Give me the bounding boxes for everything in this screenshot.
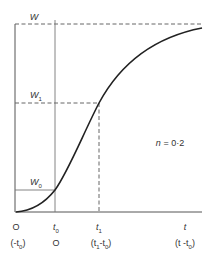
tick-origin: O — [12, 222, 19, 232]
label-w: W — [30, 12, 39, 22]
tick-t1: t1 — [96, 222, 102, 234]
annotation-n: n = 0·2 — [156, 138, 184, 148]
growth-chart — [0, 0, 212, 257]
tick-origin-shifted: (-t0) — [11, 238, 26, 250]
tick-t-shifted: (t -t0) — [175, 238, 195, 250]
tick-t0-shifted: O — [52, 238, 59, 248]
label-w1: W1 — [30, 90, 42, 102]
growth-curve — [16, 28, 202, 212]
tick-t0: t0 — [53, 222, 59, 234]
tick-t1-shifted: (t1-t0) — [91, 238, 112, 250]
tick-t: t — [184, 222, 187, 232]
label-w0: W0 — [30, 177, 42, 189]
